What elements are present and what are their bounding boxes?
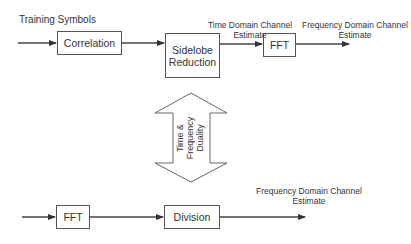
sidelobe-label-line2: Reduction [169, 56, 216, 68]
top-frequency-estimate-line2: Estimate [300, 30, 410, 40]
training-symbols-label: Training Symbols [19, 15, 96, 25]
duality-line1: Time & [175, 98, 185, 178]
fft-top-label: FFT [270, 39, 289, 51]
top-frequency-estimate-line1: Frequency Domain Channel [300, 20, 410, 30]
time-domain-estimate-line1: Time Domain Channel [190, 20, 310, 30]
correlation-block: Correlation [57, 31, 122, 55]
bottom-frequency-estimate-line1: Frequency Domain Channel [254, 186, 364, 196]
top-frequency-domain-estimate-label: Frequency Domain Channel Estimate [300, 20, 410, 40]
fft-bottom-block: FFT [56, 205, 90, 229]
division-label: Division [174, 211, 211, 223]
duality-line3: Duality [195, 98, 205, 178]
bottom-frequency-domain-estimate-label: Frequency Domain Channel Estimate [254, 186, 364, 206]
bottom-frequency-estimate-line2: Estimate [254, 196, 364, 206]
time-domain-estimate-line2: Estimate [190, 30, 310, 40]
duality-line2: Frequency [185, 98, 195, 178]
fft-bottom-label: FFT [63, 211, 82, 223]
correlation-label: Correlation [64, 37, 115, 49]
duality-label: Time & Frequency Duality [175, 98, 207, 178]
division-block: Division [164, 205, 220, 229]
time-domain-estimate-label: Time Domain Channel Estimate [190, 20, 310, 40]
sidelobe-label-line1: Sidelobe [172, 44, 213, 56]
